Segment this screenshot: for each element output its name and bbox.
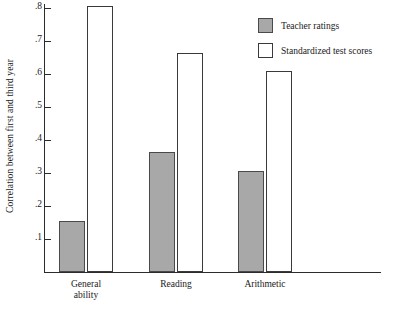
bar bbox=[149, 152, 175, 272]
bar bbox=[238, 171, 264, 272]
bar bbox=[59, 221, 85, 272]
y-axis-tick-label: .2 bbox=[20, 200, 42, 210]
x-axis-category-label: Arithmetic bbox=[220, 279, 310, 290]
bar bbox=[266, 71, 292, 272]
legend-item-teacher-ratings: Teacher ratings bbox=[258, 18, 372, 33]
legend-label-standardized-test-scores: Standardized test scores bbox=[281, 46, 372, 56]
y-axis-title: Correlation between first and third year bbox=[2, 0, 18, 272]
y-axis-tick bbox=[44, 8, 51, 9]
x-axis-line bbox=[44, 272, 381, 273]
y-axis-tick bbox=[44, 41, 51, 42]
x-axis-category-label: Generalability bbox=[41, 279, 131, 301]
y-axis-tick-label: .6 bbox=[20, 68, 42, 78]
bar bbox=[177, 53, 203, 272]
y-axis-tick-label: .4 bbox=[20, 134, 42, 144]
y-axis-tick bbox=[44, 140, 51, 141]
category-label-line-1: Arithmetic bbox=[244, 279, 285, 289]
y-axis-tick bbox=[44, 206, 51, 207]
legend-swatch-white-empty-square bbox=[258, 43, 273, 58]
legend-label-teacher-ratings: Teacher ratings bbox=[281, 21, 339, 31]
y-axis-line bbox=[44, 4, 45, 273]
y-axis-tick-label: .5 bbox=[20, 101, 42, 111]
category-label-line-1: General bbox=[71, 279, 101, 289]
x-axis-category-label: Reading bbox=[131, 279, 221, 290]
y-axis-tick bbox=[44, 239, 51, 240]
y-axis-tick bbox=[44, 173, 51, 174]
y-axis-title-text: Correlation between first and third year bbox=[5, 59, 15, 213]
y-axis-tick bbox=[44, 74, 51, 75]
y-axis-tick-label: .3 bbox=[20, 167, 42, 177]
y-axis-tick-label: .8 bbox=[20, 2, 42, 12]
category-label-line-1: Reading bbox=[160, 279, 192, 289]
y-axis-tick bbox=[44, 107, 51, 108]
y-axis-tick-label: .7 bbox=[20, 35, 42, 45]
legend: Teacher ratings Standardized test scores bbox=[258, 18, 372, 68]
y-axis-tick-label: .1 bbox=[20, 233, 42, 243]
category-label-line-2: ability bbox=[41, 290, 131, 301]
legend-item-standardized-test-scores: Standardized test scores bbox=[258, 43, 372, 58]
bar bbox=[87, 6, 113, 272]
bar-chart: Correlation between first and third year… bbox=[0, 0, 394, 309]
legend-swatch-gray-filled-square bbox=[258, 18, 273, 33]
